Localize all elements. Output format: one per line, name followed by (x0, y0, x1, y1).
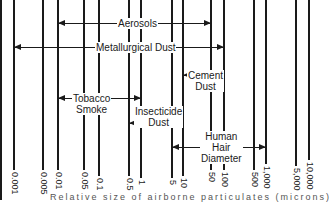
arrow-left-icon (14, 44, 21, 50)
left-border-line (0, 0, 2, 200)
tick-label: 5 (168, 180, 177, 185)
tick-label: 50 (207, 172, 216, 182)
range-label: Insecticide Dust (134, 106, 183, 128)
tick-label: 0.1 (95, 178, 104, 191)
range-label: Tobacco Smoke (72, 93, 111, 115)
tick-label: 5,000 (292, 168, 301, 191)
scale-line (13, 0, 14, 170)
arrow-right-icon (204, 20, 211, 26)
arrow-left-icon (58, 20, 65, 26)
tick-label: 0.5 (125, 178, 134, 191)
arrow-left-icon (172, 144, 179, 150)
tick-label: 10 (179, 178, 188, 188)
tick-label: 10,000 (305, 162, 314, 190)
tick-label: 0.01 (54, 172, 63, 190)
range-label: Cement Dust (187, 70, 224, 92)
tick-label: 0.005 (39, 172, 48, 195)
scale-line (308, 0, 309, 160)
tick-label: 1,000 (262, 166, 271, 189)
arrow-right-icon (217, 44, 224, 50)
tick-label: 100 (220, 172, 229, 187)
range-label: Aerosols (117, 18, 158, 29)
scale-line (265, 0, 266, 164)
tick-label: 500 (250, 172, 259, 187)
tick-label: 1 (137, 180, 146, 185)
scale-line (295, 0, 296, 166)
arrow-right-icon (259, 144, 266, 150)
tick-label: 0.05 (80, 172, 89, 190)
range-label: Human Hair Diameter (200, 131, 243, 164)
arrow-left-icon (58, 95, 65, 101)
diagram-caption: Relative size of airborne particulates (… (50, 192, 331, 202)
arrow-right-icon (134, 95, 141, 101)
scale-line (42, 0, 43, 170)
range-label: Metallurgical Dust (95, 42, 176, 53)
tick-label: 0.001 (10, 172, 19, 195)
